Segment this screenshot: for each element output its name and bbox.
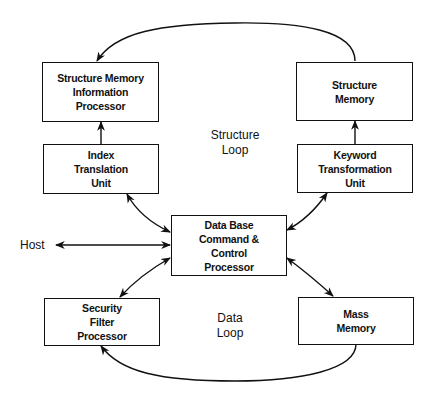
- index-translation-unit: Index Translation Unit: [43, 144, 159, 194]
- node-line: Structure Memory: [57, 71, 144, 85]
- structure-loop-line: Structure: [205, 128, 265, 143]
- host-label: Host: [20, 238, 45, 253]
- data-loop-arrow: [101, 344, 356, 381]
- data-loop-label: Data Loop: [205, 311, 255, 341]
- ktu-dbccp-arrow: [287, 193, 327, 230]
- security-filter-processor: Security Filter Processor: [44, 298, 160, 346]
- node-line: Mass: [343, 307, 368, 321]
- node-line: Processor: [204, 260, 254, 274]
- node-line: Security: [82, 301, 122, 315]
- node-line: Unit: [91, 176, 111, 190]
- mm-dbccp-arrow: [287, 258, 333, 296]
- itu-dbccp-arrow: [127, 194, 170, 232]
- sfp-dbccp-arrow: [120, 258, 170, 297]
- structure-memory: Structure Memory: [296, 62, 413, 121]
- mass-memory: Mass Memory: [298, 297, 414, 345]
- keyword-transformation-unit: Keyword Transformation Unit: [297, 144, 413, 193]
- node-line: Structure: [332, 78, 377, 92]
- node-line: Index: [88, 148, 114, 162]
- node-line: Memory: [335, 92, 374, 106]
- data-base-command-control-processor: Data Base Command & Control Processor: [171, 215, 287, 276]
- node-line: Keyword: [334, 148, 377, 162]
- structure-loop-arrow: [97, 23, 355, 61]
- structure-loop-line: Loop: [205, 143, 265, 158]
- node-line: Command &: [199, 232, 259, 246]
- node-line: Transformation: [318, 162, 392, 176]
- node-line: Data Base: [205, 218, 254, 232]
- node-line: Filter: [90, 315, 114, 329]
- node-line: Processor: [77, 329, 127, 343]
- structure-loop-label: Structure Loop: [205, 128, 265, 158]
- node-line: Unit: [345, 176, 365, 190]
- node-line: Processor: [76, 99, 126, 113]
- data-loop-line: Data: [205, 311, 255, 326]
- node-line: Information: [73, 85, 129, 99]
- node-line: Control: [211, 246, 247, 260]
- data-loop-line: Loop: [205, 326, 255, 341]
- node-line: Memory: [336, 321, 375, 335]
- node-line: Translation: [74, 162, 128, 176]
- structure-memory-information-processor: Structure Memory Information Processor: [42, 62, 159, 122]
